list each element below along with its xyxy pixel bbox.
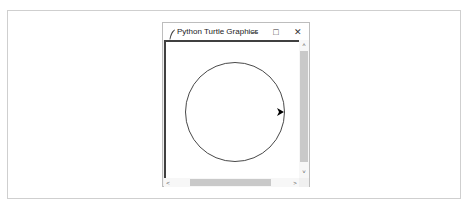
horizontal-scrollbar[interactable]: < > [164,178,299,187]
close-button[interactable]: ✕ [287,23,309,40]
maximize-icon: □ [273,27,278,37]
turtle-arrow-icon [277,108,284,116]
maximize-button[interactable]: □ [265,23,287,40]
horizontal-scroll-thumb[interactable] [190,179,271,186]
turtle-canvas[interactable] [164,40,299,178]
scroll-down-icon[interactable]: ˅ [299,167,309,177]
minimize-icon: – [251,27,256,37]
drawing-surface [166,42,299,178]
scroll-right-icon[interactable]: > [291,178,299,187]
turtle-window: Python Turtle Graphics – □ ✕ ˄ ˅ < > [162,22,310,187]
drawn-circle [186,63,285,162]
vertical-scrollbar[interactable]: ˄ ˅ [299,40,309,178]
scrollbar-corner [299,178,309,187]
feather-icon [168,26,176,37]
minimize-button[interactable]: – [243,23,265,40]
scroll-up-icon[interactable]: ˄ [299,40,309,50]
title-bar[interactable]: Python Turtle Graphics – □ ✕ [163,23,309,40]
vertical-scroll-thumb[interactable] [300,51,308,162]
close-icon: ✕ [294,27,302,37]
scroll-left-icon[interactable]: < [164,178,172,187]
